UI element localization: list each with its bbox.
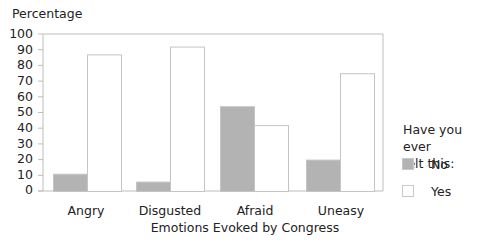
bar-angry-yes	[88, 55, 122, 192]
legend-item-yes: Yes	[402, 183, 451, 199]
x-tick-label: Uneasy	[296, 203, 386, 218]
bar-disgusted-no	[137, 182, 171, 191]
legend-swatch-yes	[402, 185, 414, 197]
legend-label-no: No	[431, 157, 448, 172]
legend-label-yes: Yes	[431, 184, 451, 199]
x-tick-label: Disgusted	[125, 203, 215, 218]
legend-item-no: No	[402, 156, 448, 172]
bar-uneasy-no	[307, 160, 341, 191]
bar-disgusted-yes	[171, 47, 205, 191]
legend-title-line: Have you ever	[403, 121, 492, 155]
bar-afraid-yes	[255, 126, 289, 192]
bar-uneasy-yes	[341, 74, 375, 192]
x-tick-label: Angry	[41, 203, 131, 218]
bar-angry-no	[54, 174, 88, 191]
legend-swatch-no	[402, 158, 414, 170]
x-axis-title: Emotions Evoked by Congress	[100, 220, 390, 235]
bar-afraid-no	[221, 107, 255, 192]
bars	[54, 47, 375, 191]
x-tick-label: Afraid	[210, 203, 300, 218]
